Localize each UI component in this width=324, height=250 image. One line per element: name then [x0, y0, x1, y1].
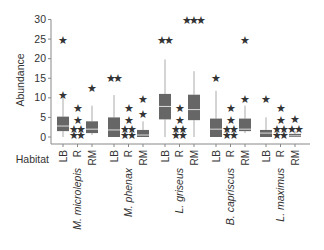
box-iqr	[108, 117, 120, 137]
outlier-star-icon: ★	[124, 114, 134, 126]
outlier-star-icon: ★	[261, 93, 271, 105]
outlier-star-icon: ★	[58, 89, 68, 101]
outlier-star-icon: ★	[113, 72, 123, 84]
y-tick-label: 15	[34, 72, 46, 84]
species-label: B. capriscus	[224, 167, 236, 225]
habitat-label: RM	[87, 150, 98, 166]
outlier-star-icon: ★	[175, 114, 185, 126]
box-mphenax-rm: ★★	[137, 93, 149, 137]
habitat-label: LB	[58, 150, 69, 163]
box-mphenax-r: ★★★★★★	[120, 102, 137, 141]
outlier-star-icon: ★	[229, 129, 239, 141]
box-lgriseus-r: ★★★★★★	[171, 102, 188, 141]
habitat-label: LB	[160, 150, 171, 163]
species-label: M. microlepis	[71, 167, 83, 230]
box-iqr	[210, 119, 222, 137]
outlier-star-icon: ★	[276, 114, 286, 126]
habitat-label: LB	[211, 150, 222, 163]
species-label: L. griseus	[173, 167, 185, 213]
box-lgriseus-lb: ★★	[157, 34, 174, 137]
outlier-star-icon: ★	[276, 102, 286, 114]
habitat-label: RM	[290, 150, 301, 166]
box-bcapriscus-rm: ★★	[239, 34, 251, 133]
habitat-label: R	[174, 150, 185, 157]
y-tick-label: 30	[34, 13, 46, 25]
box-lmaximus-rm: ★★★	[287, 113, 304, 137]
outlier-star-icon: ★	[175, 102, 185, 114]
y-tick-label: 25	[34, 33, 46, 45]
x-axis-label: Habitat	[16, 153, 49, 165]
outlier-star-icon: ★	[164, 34, 174, 46]
box-series: ★★★★★★★★★★★★★★★★★★★★★★★★★★★★★★★★★★★★★★★★…	[57, 14, 304, 141]
species-labels: M. microlepisM. phenaxL. griseusB. capri…	[71, 167, 286, 230]
box-mmicrolepis-r: ★★★★★★	[69, 102, 86, 141]
box-lmaximus-lb: ★	[260, 93, 272, 137]
y-tick-label: 10	[34, 91, 46, 103]
outlier-star-icon: ★	[178, 129, 188, 141]
outlier-star-icon: ★	[226, 102, 236, 114]
y-axis-label: Abundance	[14, 53, 26, 106]
outlier-star-icon: ★	[240, 34, 250, 46]
box-iqr	[57, 117, 69, 131]
box-bcapriscus-r: ★★★★★★	[222, 102, 239, 141]
habitat-label: RM	[189, 150, 200, 166]
outlier-star-icon: ★	[196, 14, 206, 26]
outlier-star-icon: ★	[73, 114, 83, 126]
box-mmicrolepis-rm: ★	[86, 82, 98, 135]
habitat-label: R	[123, 150, 134, 157]
outlier-star-icon: ★	[211, 72, 221, 84]
x-axis: LBRRMLBRRMLBRRMLBRRMLBRRM	[51, 144, 310, 166]
habitat-label: R	[225, 150, 236, 157]
box-mmicrolepis-lb: ★★	[57, 34, 69, 137]
outlier-star-icon: ★	[138, 108, 148, 120]
habitat-label: LB	[109, 150, 120, 163]
y-tick-label: 0	[40, 131, 46, 143]
y-axis: 051015202530	[34, 13, 51, 144]
box-iqr	[188, 95, 200, 120]
species-label: L. maximus	[274, 167, 286, 221]
habitat-label: R	[72, 150, 83, 157]
outlier-star-icon: ★	[240, 93, 250, 105]
outlier-star-icon: ★	[127, 129, 137, 141]
habitat-label: R	[275, 150, 286, 157]
y-tick-label: 20	[34, 52, 46, 64]
outlier-star-icon: ★	[138, 93, 148, 105]
outlier-star-icon: ★	[73, 102, 83, 114]
outlier-star-icon: ★	[290, 113, 300, 125]
outlier-star-icon: ★	[76, 129, 86, 141]
habitat-label: RM	[138, 150, 149, 166]
outlier-star-icon: ★	[87, 82, 97, 94]
box-lgriseus-rm: ★★★	[182, 14, 206, 137]
outlier-star-icon: ★	[58, 34, 68, 46]
y-tick-label: 5	[40, 111, 46, 123]
habitat-label: LB	[261, 150, 272, 163]
box-bcapriscus-lb: ★	[210, 72, 222, 137]
box-iqr	[86, 121, 98, 133]
outlier-star-icon: ★	[124, 102, 134, 114]
species-label: M. phenax	[122, 167, 134, 217]
box-iqr	[137, 130, 149, 137]
box-plot-chart: 051015202530 LBRRMLBRRMLBRRMLBRRMLBRRM ★…	[0, 0, 324, 250]
outlier-star-icon: ★	[226, 114, 236, 126]
habitat-label: RM	[240, 150, 251, 166]
